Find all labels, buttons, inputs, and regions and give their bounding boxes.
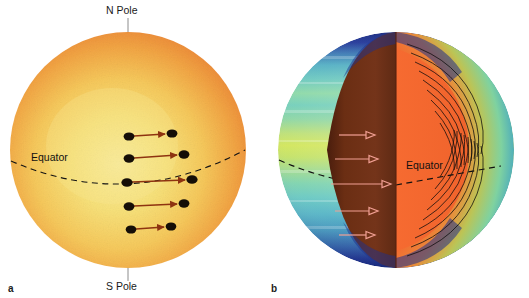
south-pole-label: S Pole — [106, 280, 137, 292]
sunspot-end — [166, 222, 177, 230]
sunspot-start — [121, 178, 132, 187]
panel-a-surface-rotation: N Pole S Pole Equator a — [0, 0, 265, 298]
panel-label-a: a — [8, 283, 14, 294]
sunspot-start — [124, 154, 135, 162]
panel-a-graphic — [0, 0, 265, 298]
sunspot-end — [179, 199, 190, 207]
sunspot-end — [167, 129, 178, 137]
equator-label-b: Equator — [406, 159, 443, 171]
sunspot-end — [186, 175, 197, 184]
sunspot-start — [124, 132, 135, 140]
sunspot-start — [124, 202, 135, 210]
solar-rotation-figure: N Pole S Pole Equator a — [0, 0, 529, 298]
panel-label-b: b — [271, 283, 277, 294]
sunspot-start — [126, 225, 137, 233]
north-pole-label: N Pole — [106, 4, 138, 16]
equator-label-a: Equator — [31, 151, 68, 163]
panel-b-interior-rotation: Equator b — [265, 0, 529, 298]
sunspot-end — [179, 150, 190, 158]
photosphere-bright-region — [46, 88, 178, 204]
panel-b-graphic — [265, 0, 529, 298]
